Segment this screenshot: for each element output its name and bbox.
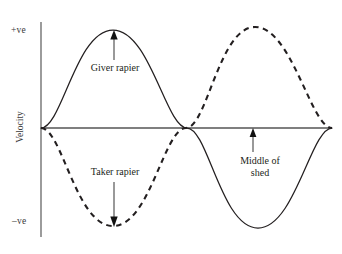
annotation-middle-of-shed: Middle of shed: [215, 155, 305, 178]
annotation-middle-line2: shed: [251, 167, 269, 178]
y-axis-tick-negative: –ve: [12, 216, 26, 226]
y-axis-tick-positive: +ve: [11, 25, 26, 35]
giver-rapier-arrow: [110, 30, 117, 60]
annotation-middle-line1: Middle of: [240, 155, 280, 166]
middle-of-shed-arrow: [250, 128, 257, 152]
taker-rapier-arrow: [110, 182, 117, 227]
annotation-giver-rapier: Giver rapier: [72, 62, 158, 74]
y-axis-title: Velocity: [15, 94, 25, 160]
annotation-taker-rapier: Taker rapier: [70, 166, 160, 178]
plot-canvas: [0, 0, 342, 254]
velocity-diagram-figure: +ve –ve Velocity Giver rapier Taker rapi…: [0, 0, 342, 254]
taker-rapier-curve: [41, 27, 332, 226]
